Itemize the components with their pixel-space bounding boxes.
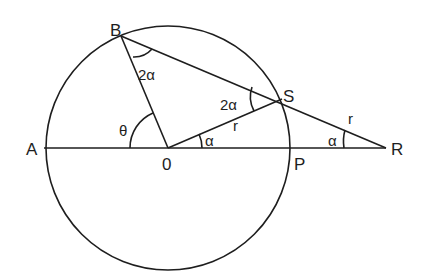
angle-R-arc: [343, 130, 345, 148]
label-R: R: [391, 140, 403, 159]
label-S: S: [283, 87, 294, 106]
label-B: B: [110, 21, 121, 40]
label-P: P: [294, 155, 305, 174]
geometry-diagram: A B 0 S P R θ 2α 2α α α r r: [0, 0, 429, 280]
label-O: 0: [162, 155, 171, 174]
label-angle-O: α: [205, 132, 214, 149]
angle-O-arc: [199, 134, 202, 148]
label-OS-r: r: [233, 117, 238, 134]
label-theta: θ: [119, 122, 127, 139]
angle-B-arc: [133, 49, 152, 57]
label-angle-R: α: [328, 132, 337, 149]
label-SR-r: r: [348, 110, 353, 127]
label-A: A: [26, 140, 38, 159]
label-angle-B: 2α: [138, 66, 155, 83]
label-angle-S: 2α: [220, 96, 237, 113]
angle-theta-arc: [130, 113, 153, 148]
